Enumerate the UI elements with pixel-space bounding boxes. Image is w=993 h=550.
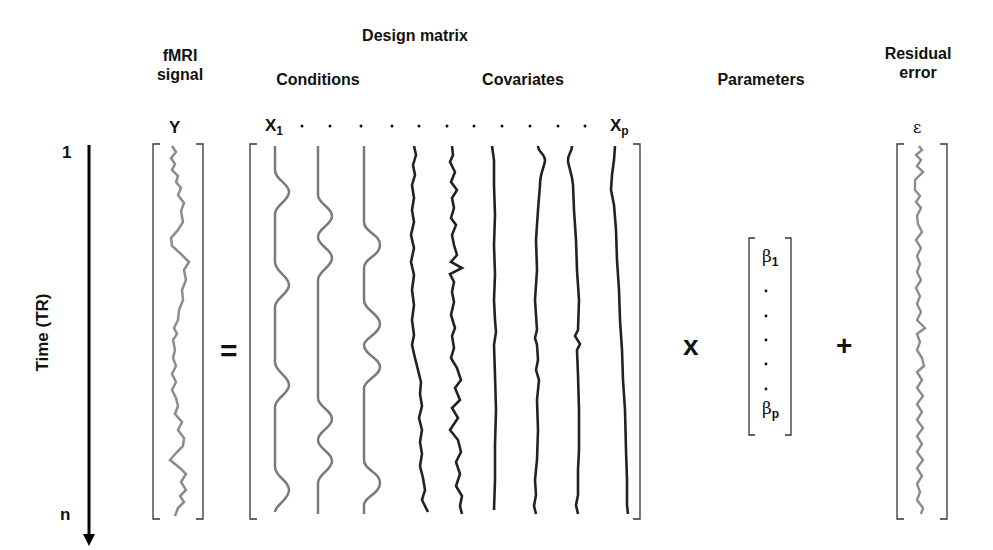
condition-column-1 <box>275 146 289 512</box>
covariate-column-4 <box>534 146 545 514</box>
covariate-column-6 <box>611 146 628 514</box>
design-matrix-header-dots <box>301 125 587 128</box>
residual-error-curve <box>915 146 925 514</box>
covariate-column-1 <box>411 146 428 512</box>
fmri-signal-curve <box>170 146 189 516</box>
design-matrix-brackets <box>250 144 640 519</box>
covariate-column-3 <box>492 146 496 510</box>
condition-column-3 <box>364 146 380 514</box>
covariate-column-5 <box>568 146 580 514</box>
covariate-column-2 <box>450 146 462 514</box>
parameter-dots <box>765 290 768 391</box>
glm-figure <box>0 0 993 550</box>
condition-column-2 <box>318 146 332 514</box>
signal-brackets <box>153 144 203 519</box>
time-arrow <box>83 145 95 546</box>
parameter-brackets <box>749 238 791 435</box>
